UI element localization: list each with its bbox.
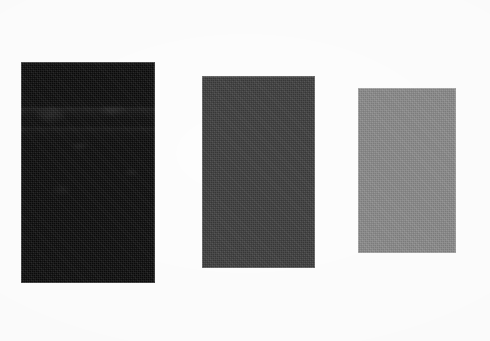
swatch-medium-gray <box>358 88 456 253</box>
halftone-texture-medium-dark <box>202 76 315 268</box>
figure-canvas <box>0 0 490 341</box>
swatch-edge-medium-gray <box>358 88 456 253</box>
halftone-texture-darkest <box>21 62 155 283</box>
swatch-edge-medium-dark <box>202 76 315 268</box>
swatch-edge-darkest <box>21 62 155 283</box>
scan-blotches-darkest <box>21 62 155 283</box>
swatch-medium-dark <box>202 76 315 268</box>
swatch-darkest <box>21 62 155 283</box>
halftone-texture-medium-gray <box>358 88 456 253</box>
scan-streaks-darkest <box>21 62 155 283</box>
